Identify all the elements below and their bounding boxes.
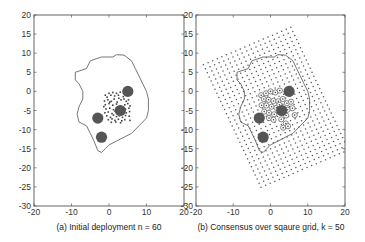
y-tick-label: -30 bbox=[181, 201, 194, 211]
x-tick-label: 0 bbox=[268, 207, 273, 217]
y-tick-label: 0 bbox=[188, 86, 193, 96]
panel-a-caption: (a) Initial deployment n = 60 bbox=[56, 222, 161, 232]
y-tick-label: 5 bbox=[26, 67, 31, 77]
y-tick-label: -15 bbox=[19, 144, 32, 154]
y-tick-label: -25 bbox=[19, 182, 32, 192]
y-tick-label: -10 bbox=[19, 125, 32, 135]
y-tick-label: -5 bbox=[185, 106, 193, 116]
y-tick-label: -15 bbox=[181, 144, 194, 154]
y-tick-label: -10 bbox=[181, 125, 194, 135]
y-tick-label: 10 bbox=[22, 48, 32, 58]
y-tick-label: 10 bbox=[184, 48, 194, 58]
y-tick-label: 0 bbox=[26, 86, 31, 96]
y-tick-label: -20 bbox=[181, 163, 194, 173]
x-tick-label: 10 bbox=[303, 207, 313, 217]
x-tick-label: -10 bbox=[65, 207, 78, 217]
x-tick-label: 20 bbox=[340, 207, 350, 217]
y-tick-label: -20 bbox=[19, 163, 32, 173]
y-tick-label: 20 bbox=[184, 10, 194, 20]
panel-b-caption: (b) Consensus over sqaure grid, k = 50 bbox=[197, 222, 344, 232]
y-tick-label: -25 bbox=[181, 182, 194, 192]
plot-area bbox=[75, 55, 148, 153]
y-tick-label: 20 bbox=[22, 10, 32, 20]
y-tick-label: -30 bbox=[19, 201, 32, 211]
plot-area bbox=[203, 27, 346, 189]
x-tick-label: 0 bbox=[107, 207, 112, 217]
panel-a-initial-deployment: -20-100102020151050-5-10-15-20-25-30 bbox=[19, 10, 189, 217]
y-tick-label: 5 bbox=[188, 67, 193, 77]
x-tick-label: 10 bbox=[142, 207, 152, 217]
axes-frame bbox=[34, 15, 184, 206]
y-tick-label: -5 bbox=[23, 106, 31, 116]
figure: -20-100102020151050-5-10-15-20-25-30 -20… bbox=[0, 0, 365, 242]
y-tick-label: 15 bbox=[184, 29, 194, 39]
panel-b-consensus-grid: -20-100102020151050-5-10-15-20-25-30 bbox=[181, 10, 350, 217]
x-tick-label: -10 bbox=[227, 207, 240, 217]
y-tick-label: 15 bbox=[22, 29, 32, 39]
obstacle-disks bbox=[92, 86, 133, 143]
region-boundary bbox=[75, 55, 148, 153]
ticks: -20-100102020151050-5-10-15-20-25-30 bbox=[19, 10, 189, 217]
